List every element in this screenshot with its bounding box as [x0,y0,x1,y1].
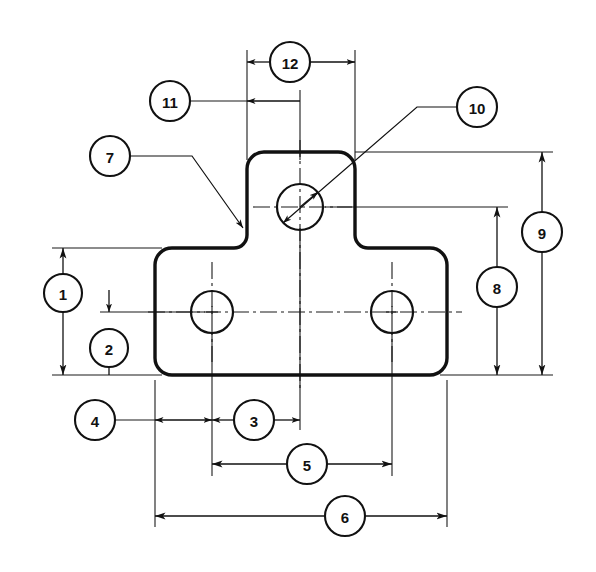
balloon-4[interactable]: 4 [75,400,115,440]
balloon-1[interactable]: 1 [44,274,82,312]
balloon-7-label: 7 [106,149,114,166]
balloon-2[interactable]: 2 [90,329,128,367]
balloon-12-label: 12 [282,55,299,72]
balloon-6-label: 6 [341,509,349,526]
balloon-6[interactable]: 6 [325,496,365,536]
balloon-4-label: 4 [91,413,100,430]
leader-line-10-hole-diameter [283,107,457,223]
center-lines [148,140,462,390]
balloon-5[interactable]: 5 [287,444,327,484]
balloon-7[interactable]: 7 [90,136,130,176]
balloon-8[interactable]: 8 [477,267,517,307]
leader-callouts [130,107,457,228]
balloon-9[interactable]: 9 [522,212,562,252]
balloon-11[interactable]: 11 [150,81,190,121]
balloon-1-label: 1 [59,286,67,303]
balloon-callouts: 1 2 3 4 5 6 7 8 [44,42,562,536]
balloon-12[interactable]: 12 [270,42,310,82]
balloon-10[interactable]: 10 [457,87,497,127]
balloon-3-label: 3 [250,413,258,430]
balloon-2-label: 2 [105,341,113,358]
balloon-10-label: 10 [469,100,486,117]
balloon-5-label: 5 [303,457,311,474]
balloon-11-label: 11 [162,94,178,111]
balloon-3[interactable]: 3 [234,400,274,440]
leader-line-7-fillet [130,156,243,228]
balloon-8-label: 8 [493,280,501,297]
leader-line-10-diameter-arrow-upper [300,192,318,207]
technical-drawing: 1 2 3 4 5 6 7 8 [0,0,596,572]
engineering-drawing-canvas: 1 2 3 4 5 6 7 8 [0,0,596,572]
part-outline-t-bracket [155,152,447,375]
balloon-9-label: 9 [538,225,546,242]
